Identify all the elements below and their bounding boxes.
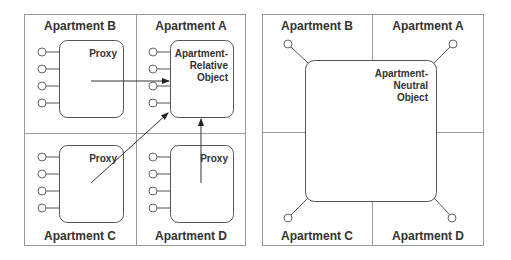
proxy-c: Proxy [38,146,124,223]
interface-icon [449,40,457,48]
object-label-line-3: Object [197,72,229,83]
neutral-label-line-2: Neutral [394,80,429,91]
object-label-line-1: Apartment- [175,48,228,59]
interface-icon [38,65,46,73]
interface-icon [149,99,157,107]
apartment-a-label-right: Apartment A [392,19,464,33]
interface-icon [448,214,456,222]
right-panel: Apartment B Apartment A Apartment C Apar… [263,15,484,246]
interface-icon [284,214,292,222]
apartment-c-label: Apartment C [44,229,116,243]
interface-icon [149,204,157,212]
apartment-c-label-right: Apartment C [281,229,353,243]
interface-icon [149,82,157,90]
apartment-diagram: Apartment B Apartment A Apartment C Apar… [0,0,511,260]
interface-icon [38,187,46,195]
interface-icon [38,48,46,56]
apartment-d-label: Apartment D [155,229,227,243]
apartment-relative-object: Apartment- Relative Object [149,41,234,118]
interface-icon [38,204,46,212]
proxy-b-label: Proxy [89,48,117,59]
interface-icon [284,40,292,48]
interface-icon [149,187,157,195]
interface-icon [38,99,46,107]
apartment-a-label: Apartment A [155,19,227,33]
neutral-label-line-3: Object [397,92,429,103]
interface-icon [38,170,46,178]
interface-icon [38,82,46,90]
object-label-line-2: Relative [190,60,229,71]
left-panel: Apartment B Apartment A Apartment C Apar… [25,15,246,246]
interface-icon [38,153,46,161]
interface-icon [149,153,157,161]
proxy-d: Proxy [149,146,234,223]
interface-icon [149,170,157,178]
interface-icon [149,65,157,73]
interface-icon [149,48,157,56]
apartment-neutral-object: Apartment- Neutral Object [284,40,457,222]
proxy-b: Proxy [38,41,124,118]
apartment-b-label-right: Apartment B [281,19,353,33]
neutral-label-line-1: Apartment- [375,68,428,79]
apartment-b-label: Apartment B [44,19,116,33]
apartment-d-label-right: Apartment D [392,229,464,243]
proxy-d-label: Proxy [200,153,228,164]
